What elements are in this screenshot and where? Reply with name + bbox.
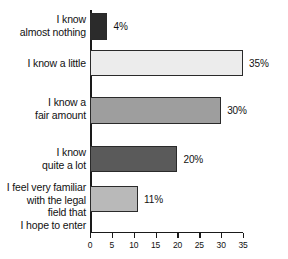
- bar-3: [90, 146, 177, 172]
- category-label-2: I know a fair amount: [0, 96, 86, 121]
- x-tick-25: [199, 233, 200, 238]
- bar-value-label-4: 11%: [144, 194, 163, 205]
- category-label-4-line-1: with the legal: [0, 194, 86, 207]
- bar-value-label-2: 30%: [227, 105, 247, 116]
- bar-4: [90, 186, 138, 212]
- bar-value-label-3: 20%: [183, 154, 203, 165]
- category-label-4-line-0: I feel very familiar: [0, 181, 86, 194]
- category-label-4: I feel very familiar with the legal fiel…: [0, 181, 86, 231]
- category-label-4-line-2: field that: [0, 206, 86, 219]
- category-label-1: I know a little: [0, 57, 86, 70]
- x-tick-30: [221, 233, 222, 238]
- bar-chart: I know almost nothing I know a little I …: [0, 0, 288, 259]
- bar-1: [90, 50, 243, 76]
- category-label-2-line-0: I know a: [0, 96, 86, 109]
- x-tick-10: [134, 233, 135, 238]
- x-tick-15: [156, 233, 157, 238]
- x-tick-5: [112, 233, 113, 238]
- category-label-0-line-1: almost nothing: [0, 26, 86, 39]
- x-tick-label-0: 0: [88, 240, 93, 250]
- x-tick-label-5: 5: [110, 240, 115, 250]
- x-tick-label-30: 30: [217, 240, 226, 250]
- plot-area: 4% 35% 30% 20% 11% 05101520253035: [90, 0, 288, 259]
- category-label-1-line-0: I know a little: [0, 57, 86, 70]
- bar-2: [90, 97, 221, 124]
- category-label-3: I know quite a lot: [0, 146, 86, 171]
- bar-0: [90, 13, 107, 40]
- category-label-2-line-1: fair amount: [0, 109, 86, 122]
- x-tick-label-20: 20: [173, 240, 182, 250]
- x-tick-0: [90, 233, 91, 238]
- x-tick-label-15: 15: [151, 240, 160, 250]
- category-label-3-line-1: quite a lot: [0, 159, 86, 172]
- x-tick-20: [177, 233, 178, 238]
- x-tick-35: [243, 233, 244, 238]
- category-label-0-line-0: I know: [0, 13, 86, 26]
- category-label-4-line-3: I hope to enter: [0, 219, 86, 232]
- category-label-3-line-0: I know: [0, 146, 86, 159]
- x-tick-label-25: 25: [195, 240, 204, 250]
- bar-value-label-0: 4%: [113, 21, 127, 32]
- bar-value-label-1: 35%: [249, 58, 269, 69]
- category-axis-labels: I know almost nothing I know a little I …: [0, 0, 86, 259]
- x-tick-label-35: 35: [238, 240, 247, 250]
- x-tick-label-10: 10: [129, 240, 138, 250]
- category-label-0: I know almost nothing: [0, 13, 86, 38]
